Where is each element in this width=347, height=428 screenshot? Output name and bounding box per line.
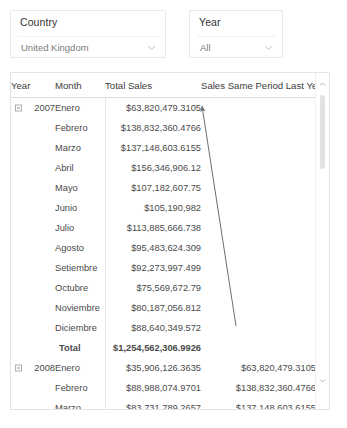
- cell-month: Agosto: [55, 238, 105, 258]
- slicer-year[interactable]: Year All: [189, 10, 283, 58]
- slicer-country[interactable]: Country United Kingdom: [10, 10, 166, 58]
- slicer-country-value: United Kingdom: [18, 42, 89, 53]
- table-row[interactable]: Febrero$88,988,074.9701$138,832,360.4766: [11, 378, 316, 398]
- cell-sales-same-period-last-year: [201, 318, 316, 338]
- cell-month: Total: [55, 338, 105, 358]
- cell-year: [11, 318, 55, 338]
- table-row[interactable]: Agosto$95,483,624.309: [11, 238, 316, 258]
- cell-total-sales: $113,885,666.738: [105, 218, 201, 238]
- cell-sales-same-period-last-year: [201, 278, 316, 298]
- table-row[interactable]: 2008Enero$35,906,126.3635$63,820,479.310…: [11, 358, 316, 378]
- cell-sales-same-period-last-year: [201, 178, 316, 198]
- table-row[interactable]: Noviembre$80,187,056.812: [11, 298, 316, 318]
- cell-year: 2007: [11, 98, 55, 119]
- table-row[interactable]: Junio$105,190,982: [11, 198, 316, 218]
- table-row[interactable]: Diciembre$88,640,349.572: [11, 318, 316, 338]
- collapse-icon[interactable]: [15, 105, 22, 112]
- slicer-country-dropdown[interactable]: United Kingdom: [18, 36, 159, 56]
- cell-year: [11, 178, 55, 198]
- cell-month: Octubre: [55, 278, 105, 298]
- cell-year: [11, 118, 55, 138]
- cell-sales-same-period-last-year: [201, 338, 316, 358]
- cell-sales-same-period-last-year: [201, 238, 316, 258]
- cell-month: Febrero: [55, 378, 105, 398]
- cell-year: [11, 158, 55, 178]
- cell-sales-same-period-last-year: [201, 198, 316, 218]
- collapse-icon[interactable]: [15, 365, 22, 372]
- table-row[interactable]: Mayo$107,182,607.75: [11, 178, 316, 198]
- table-body: 2007Enero$63,820,479.3105Febrero$138,832…: [11, 98, 316, 410]
- column-header-sply[interactable]: Sales Same Period Last Year: [201, 73, 316, 98]
- cell-month: Marzo: [55, 138, 105, 158]
- cell-total-sales: $35,906,126.3635: [105, 358, 201, 378]
- sales-matrix-visual[interactable]: Year Month Total Sales Sales Same Period…: [10, 72, 330, 410]
- cell-total-sales: $83,731,789.2657: [105, 398, 201, 409]
- cell-sales-same-period-last-year: [201, 118, 316, 138]
- cell-total-sales: $105,190,982: [105, 198, 201, 218]
- table-row[interactable]: Octubre$75,569,672.79: [11, 278, 316, 298]
- table-row[interactable]: Setiembre$92,273,997.499: [11, 258, 316, 278]
- cell-month: Enero: [55, 98, 105, 119]
- cell-total-sales: $156,346,906.12: [105, 158, 201, 178]
- cell-year: [11, 258, 55, 278]
- cell-month: Diciembre: [55, 318, 105, 338]
- matrix-scroll-area[interactable]: Year Month Total Sales Sales Same Period…: [11, 73, 329, 409]
- cell-month: Abril: [55, 158, 105, 178]
- table-row[interactable]: Abril$156,346,906.12: [11, 158, 316, 178]
- cell-total-sales: $80,187,056.812: [105, 298, 201, 318]
- cell-sales-same-period-last-year: [201, 218, 316, 238]
- cell-year: [11, 398, 55, 409]
- slicer-year-value: All: [197, 42, 211, 53]
- cell-year: [11, 278, 55, 298]
- cell-total-sales: $1,254,562,306.9926: [105, 338, 201, 358]
- cell-year: 2008: [11, 358, 55, 378]
- table-row[interactable]: 2007Enero$63,820,479.3105: [11, 98, 316, 119]
- cell-year: [11, 378, 55, 398]
- cell-year: [11, 138, 55, 158]
- cell-sales-same-period-last-year: $138,832,360.4766: [201, 378, 316, 398]
- cell-total-sales: $107,182,607.75: [105, 178, 201, 198]
- vertical-scrollbar[interactable]: [315, 73, 329, 409]
- cell-sales-same-period-last-year: $137,148,603.6155: [201, 398, 316, 409]
- cell-year: [11, 238, 55, 258]
- chevron-down-icon[interactable]: [146, 42, 157, 53]
- cell-total-sales: $138,832,360.4766: [105, 118, 201, 138]
- chevron-down-icon[interactable]: [316, 373, 329, 387]
- sales-matrix-table: Year Month Total Sales Sales Same Period…: [11, 73, 316, 409]
- slicer-year-title: Year: [199, 16, 221, 28]
- cell-year: [11, 218, 55, 238]
- cell-total-sales: $88,988,074.9701: [105, 378, 201, 398]
- cell-sales-same-period-last-year: [201, 258, 316, 278]
- cell-year: [11, 298, 55, 318]
- table-row[interactable]: Julio$113,885,666.738: [11, 218, 316, 238]
- chevron-up-icon[interactable]: [316, 77, 329, 91]
- cell-sales-same-period-last-year: [201, 298, 316, 318]
- cell-total-sales: $95,483,624.309: [105, 238, 201, 258]
- cell-total-sales: $92,273,997.499: [105, 258, 201, 278]
- slicer-country-title: Country: [20, 16, 57, 28]
- cell-month: Julio: [55, 218, 105, 238]
- table-row[interactable]: Total$1,254,562,306.9926: [11, 338, 316, 358]
- cell-month: Mayo: [55, 178, 105, 198]
- table-row[interactable]: Marzo$83,731,789.2657$137,148,603.6155: [11, 398, 316, 409]
- table-header-row: Year Month Total Sales Sales Same Period…: [11, 73, 316, 98]
- cell-sales-same-period-last-year: $63,820,479.3105: [201, 358, 316, 378]
- table-row[interactable]: Marzo$137,148,603.6155: [11, 138, 316, 158]
- slicer-year-dropdown[interactable]: All: [197, 36, 276, 56]
- cell-total-sales: $63,820,479.3105: [105, 98, 201, 119]
- column-header-total-sales[interactable]: Total Sales: [105, 73, 201, 98]
- cell-month: Junio: [55, 198, 105, 218]
- chevron-down-icon[interactable]: [263, 42, 274, 53]
- cell-sales-same-period-last-year: [201, 98, 316, 119]
- cell-total-sales: $75,569,672.79: [105, 278, 201, 298]
- scrollbar-thumb[interactable]: [320, 95, 325, 169]
- cell-sales-same-period-last-year: [201, 158, 316, 178]
- cell-year: [11, 198, 55, 218]
- column-header-year[interactable]: Year: [11, 73, 55, 98]
- cell-month: Noviembre: [55, 298, 105, 318]
- column-header-month[interactable]: Month: [55, 73, 105, 98]
- table-row[interactable]: Febrero$138,832,360.4766: [11, 118, 316, 138]
- cell-month: Febrero: [55, 118, 105, 138]
- table-header: Year Month Total Sales Sales Same Period…: [11, 73, 316, 98]
- cell-sales-same-period-last-year: [201, 138, 316, 158]
